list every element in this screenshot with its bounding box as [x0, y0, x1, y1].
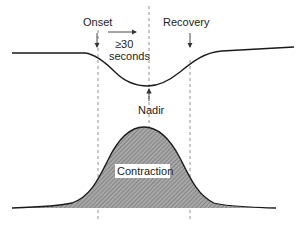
nadir-label: Nadir [138, 104, 165, 116]
duration-label-line2: seconds [109, 50, 150, 62]
fhr-deceleration-curve [12, 47, 294, 86]
late-deceleration-diagram: Onset Recovery ≥30 seconds Nadir Contrac… [0, 0, 297, 230]
recovery-label: Recovery [163, 16, 210, 28]
duration-label-line1: ≥30 [115, 38, 133, 50]
contraction-label: Contraction [117, 165, 173, 177]
onset-label: Onset [83, 16, 112, 28]
